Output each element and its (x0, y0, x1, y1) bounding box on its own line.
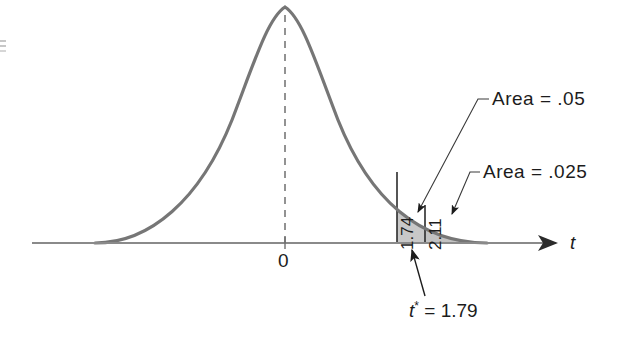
shaded-area-025 (425, 0, 489, 243)
scan-edge-artifact (0, 40, 6, 54)
density-curve (95, 7, 487, 243)
axis-label-zero: 0 (278, 250, 289, 272)
tick-label-174: 1.74 (398, 217, 418, 250)
shaded-area-05 (397, 0, 489, 243)
critical-value-superscript: * (414, 299, 419, 313)
axis-variable-label: t (570, 232, 575, 254)
critical-value-equals: = (424, 300, 435, 321)
arrow-tstar (412, 250, 425, 296)
critical-value-label: t* = 1.79 (409, 299, 478, 322)
tick-label-211: 2.11 (426, 218, 446, 250)
area-label-05: Area = .05 (492, 88, 585, 110)
leader-line-area-05 (418, 99, 489, 212)
critical-value-number: 1.79 (441, 300, 478, 321)
area-label-025: Area = .025 (483, 161, 587, 183)
leader-line-area-025 (452, 172, 480, 214)
